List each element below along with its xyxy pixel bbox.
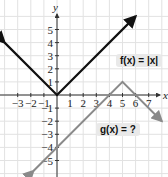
svg-text:−2: −2 [41, 115, 53, 127]
x-axis-label: x [162, 89, 168, 101]
svg-text:−3: −3 [41, 128, 53, 140]
grid [0, 0, 168, 177]
svg-text:2: 2 [80, 97, 86, 109]
svg-text:3: 3 [48, 50, 54, 62]
svg-text:4: 4 [48, 37, 54, 49]
svg-text:−2: −2 [25, 97, 37, 109]
svg-text:2: 2 [48, 63, 54, 75]
y-axis-label: y [52, 1, 58, 13]
svg-text:−3: −3 [12, 97, 24, 109]
svg-text:6: 6 [133, 97, 139, 109]
g-function-label: g(x) = ? [96, 123, 140, 136]
svg-text:−1: −1 [41, 102, 53, 114]
graph-canvas: −3−2−1123456754321−1−2−3−4−5 x y [0, 0, 168, 177]
svg-text:4: 4 [107, 97, 113, 109]
svg-text:5: 5 [48, 24, 54, 36]
f-function-label: f(x) = |x| [116, 54, 162, 67]
svg-text:1: 1 [67, 97, 73, 109]
svg-text:5: 5 [120, 97, 126, 109]
